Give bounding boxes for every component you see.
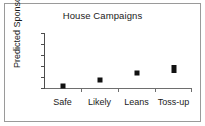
x-axis-tick-label: Safe: [53, 97, 72, 107]
y-axis-tick: [41, 44, 45, 45]
x-axis-tick: [81, 88, 82, 92]
data-point: [134, 70, 139, 75]
data-point: [171, 65, 176, 73]
x-axis-tick: [155, 88, 156, 92]
y-axis-tick: [41, 55, 45, 56]
y-axis-tick: [41, 66, 45, 67]
x-axis-tick: [118, 88, 119, 92]
chart-figure: House Campaigns Predicted Sponsors 02468…: [0, 0, 205, 126]
x-axis-tick-labels: SafeLikelyLeansToss-up: [44, 97, 192, 111]
data-point: [60, 83, 65, 88]
x-axis-tick-label: Likely: [88, 97, 111, 107]
y-axis-tick: [41, 77, 45, 78]
plot-area: [44, 33, 192, 88]
y-axis-tick: [41, 88, 45, 89]
y-axis-label: Predicted Sponsors: [12, 0, 22, 68]
x-axis-tick: [191, 88, 192, 92]
y-axis-line: [44, 33, 45, 88]
y-axis-tick: [41, 33, 45, 34]
x-axis-tick-label: Leans: [124, 97, 149, 107]
data-point: [97, 77, 102, 82]
x-axis-tick-label: Toss-up: [158, 97, 190, 107]
chart-title: House Campaigns: [0, 10, 205, 21]
